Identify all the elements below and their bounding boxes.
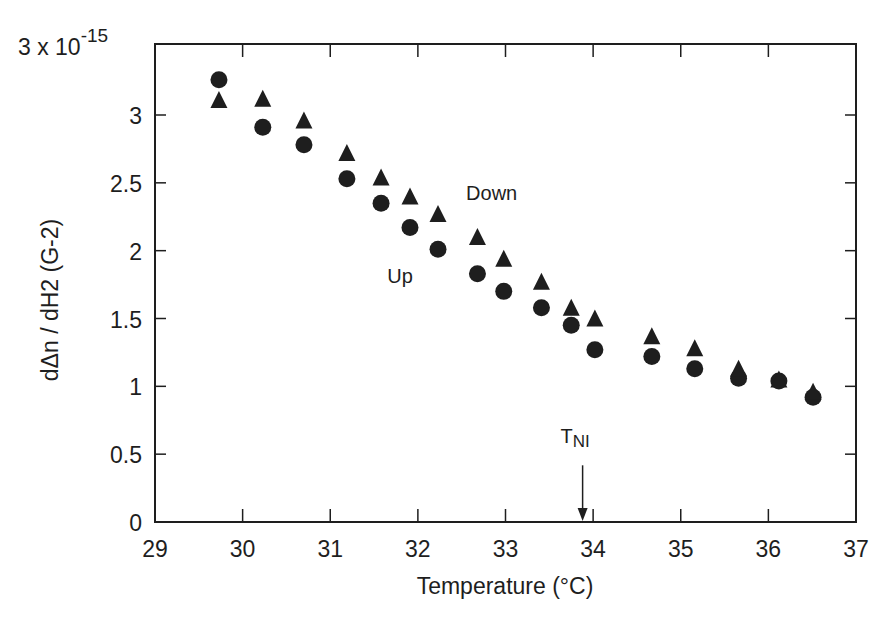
arrow-down-icon [578,508,588,521]
y-tick-label: 3 [129,103,142,129]
data-point-triangle [373,168,390,185]
y-tick-label: 1.5 [110,307,142,333]
data-point-circle [338,170,355,187]
x-axis-title: Temperature (°C) [417,573,594,599]
data-point-circle [686,360,703,377]
y-axis-multiplier: 3 x 10-15 [18,25,108,60]
scatter-chart: 293031323334353637 00.511.522.53 UpDownT… [0,0,891,623]
x-tick-label: 33 [493,536,519,562]
multiplier-exponent: -15 [81,25,108,46]
y-tick-label: 1 [129,374,142,400]
data-point-triangle [495,250,512,267]
data-point-circle [373,195,390,212]
data-point-circle [401,219,418,236]
data-point-triangle [533,273,550,290]
data-point-triangle [338,144,355,161]
data-point-circle [469,265,486,282]
x-tick-label: 34 [580,536,606,562]
data-point-triangle [730,360,747,377]
data-point-triangle [563,299,580,316]
data-point-circle [643,348,660,365]
series-down [210,90,821,400]
x-tick-label: 37 [843,536,869,562]
y-tick-label: 0.5 [110,442,142,468]
data-point-triangle [469,228,486,245]
data-point-circle [430,241,447,258]
data-series [210,71,821,405]
data-point-triangle [401,187,418,204]
x-tick-label: 29 [142,536,168,562]
data-point-triangle [643,327,660,344]
data-point-circle [495,283,512,300]
data-point-circle [563,317,580,334]
label-up: Up [387,265,413,287]
data-point-triangle [586,310,603,327]
label-down: Down [466,182,517,204]
x-tick-label: 36 [756,536,782,562]
x-tick-label: 32 [405,536,431,562]
tni-label: TNI [561,425,590,451]
data-point-triangle [210,91,227,108]
annotations: UpDownTNI [387,182,590,521]
x-tick-label: 31 [317,536,343,562]
plot-frame [155,44,856,522]
data-point-triangle [430,205,447,222]
y-axis-title: dΔn / dH2 (G-2) [37,219,63,381]
y-axis-ticks: 00.511.522.53 [110,103,856,536]
plot-border [155,44,856,522]
x-tick-label: 30 [230,536,256,562]
data-point-triangle [295,111,312,128]
data-point-circle [210,71,227,88]
data-point-triangle [254,90,271,107]
y-tick-label: 2 [129,239,142,265]
data-point-triangle [686,339,703,356]
x-tick-label: 35 [668,536,694,562]
data-point-circle [295,136,312,153]
y-tick-label: 0 [129,510,142,536]
data-point-circle [254,119,271,136]
x-axis-ticks: 293031323334353637 [142,44,869,562]
multiplier-base: 3 x 10 [18,34,81,60]
data-point-circle [533,299,550,316]
y-tick-label: 2.5 [110,171,142,197]
data-point-circle [586,341,603,358]
